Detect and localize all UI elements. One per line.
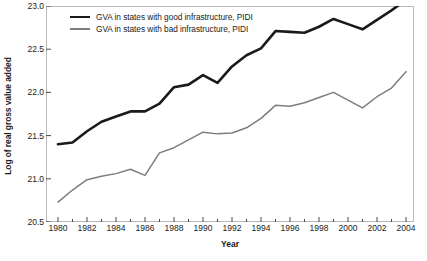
x-tick-label: 1986 bbox=[136, 223, 155, 233]
x-tick-label: 1998 bbox=[310, 223, 329, 233]
plot-frame bbox=[47, 7, 414, 222]
chart-figure: Log of real gross value added 20.521.021… bbox=[0, 0, 427, 261]
x-tick-label: 1984 bbox=[107, 223, 126, 233]
legend-item-label: GVA in states with bad infrastructure, P… bbox=[96, 24, 248, 34]
legend-line-swatch bbox=[70, 28, 90, 30]
chart-legend: GVA in states with good infrastructure, … bbox=[70, 11, 300, 35]
x-tick-label: 1992 bbox=[223, 223, 242, 233]
x-tick-label: 2000 bbox=[339, 223, 358, 233]
x-tick-label: 1980 bbox=[49, 223, 68, 233]
legend-item: GVA in states with good infrastructure, … bbox=[70, 11, 300, 23]
legend-line-swatch bbox=[70, 16, 90, 19]
caption-ghost-artifact bbox=[6, 253, 306, 259]
y-tick-label: 21.5 bbox=[18, 131, 44, 141]
legend-swatch-bar bbox=[70, 16, 90, 19]
legend-item-label: GVA in states with good infrastructure, … bbox=[96, 12, 253, 22]
x-tick-label: 1994 bbox=[252, 223, 271, 233]
plot-area bbox=[46, 6, 414, 222]
x-tick-label: 1988 bbox=[165, 223, 184, 233]
x-tick-label: 2004 bbox=[397, 223, 416, 233]
y-tick-label: 22.5 bbox=[18, 44, 44, 54]
x-axis-tick-labels: 1980198219841986198819901992199419961998… bbox=[46, 223, 414, 237]
y-tick-label: 23.0 bbox=[18, 1, 44, 11]
y-tick-label: 22.0 bbox=[18, 87, 44, 97]
legend-swatch-bar bbox=[70, 28, 90, 30]
x-axis-title: Year bbox=[46, 239, 414, 249]
y-tick-label: 20.5 bbox=[18, 217, 44, 227]
y-axis-tick-labels: 20.521.021.522.022.523.0 bbox=[14, 0, 44, 232]
x-tick-label: 1990 bbox=[194, 223, 213, 233]
x-tick-label: 2002 bbox=[368, 223, 387, 233]
x-tick-label: 1996 bbox=[281, 223, 300, 233]
x-tick-label: 1982 bbox=[78, 223, 97, 233]
y-axis-title-text: Log of real gross value added bbox=[3, 57, 13, 175]
y-tick-label: 21.0 bbox=[18, 174, 44, 184]
legend-item: GVA in states with bad infrastructure, P… bbox=[70, 23, 300, 35]
